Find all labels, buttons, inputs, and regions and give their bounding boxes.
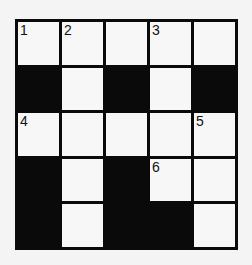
cell-r0-c1[interactable]: 2 [62, 22, 103, 65]
cell-r3-c4[interactable] [194, 159, 235, 202]
clue-number: 4 [20, 114, 28, 128]
black-cell-r3-c0 [18, 159, 59, 202]
cell-r2-c1[interactable] [62, 113, 103, 156]
cell-r2-c4[interactable]: 5 [194, 113, 235, 156]
cell-r4-c4[interactable] [194, 204, 235, 247]
cell-r0-c0[interactable]: 1 [18, 22, 59, 65]
crossword-grid: 1 2 3 4 5 6 [15, 19, 238, 250]
cell-r2-c0[interactable]: 4 [18, 113, 59, 156]
black-cell-r1-c2 [106, 68, 147, 111]
black-cell-r1-c4 [194, 68, 235, 111]
cell-r0-c3[interactable]: 3 [150, 22, 191, 65]
cell-r2-c2[interactable] [106, 113, 147, 156]
clue-number: 1 [20, 23, 28, 37]
cell-r4-c1[interactable] [62, 204, 103, 247]
cell-r1-c1[interactable] [62, 68, 103, 111]
cell-r0-c4[interactable] [194, 22, 235, 65]
clue-number: 5 [196, 114, 204, 128]
black-cell-r4-c2 [106, 204, 147, 247]
cell-r3-c3[interactable]: 6 [150, 159, 191, 202]
cell-r0-c2[interactable] [106, 22, 147, 65]
clue-number: 2 [64, 23, 72, 37]
black-cell-r4-c0 [18, 204, 59, 247]
black-cell-r4-c3 [150, 204, 191, 247]
clue-number: 3 [152, 23, 160, 37]
black-cell-r1-c0 [18, 68, 59, 111]
cell-r1-c3[interactable] [150, 68, 191, 111]
black-cell-r3-c2 [106, 159, 147, 202]
cell-r2-c3[interactable] [150, 113, 191, 156]
cell-r3-c1[interactable] [62, 159, 103, 202]
clue-number: 6 [152, 160, 160, 174]
